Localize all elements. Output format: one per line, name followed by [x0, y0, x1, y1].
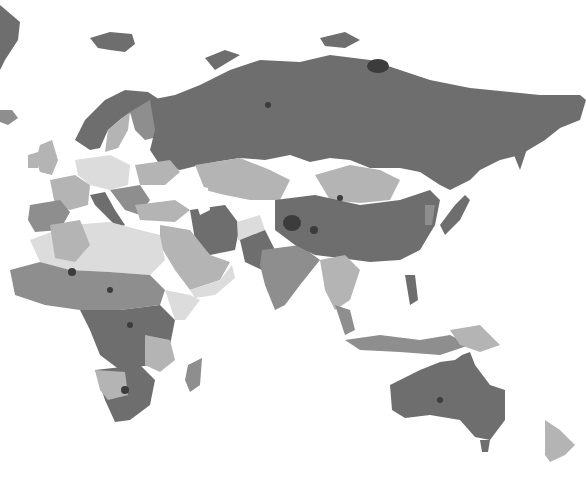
spot	[337, 195, 343, 201]
region-madagascar	[185, 358, 202, 392]
region-taymyr-spot	[367, 59, 389, 73]
region-indonesia	[345, 335, 470, 355]
region-new-zealand	[545, 420, 575, 462]
region-indochina	[320, 255, 360, 310]
region-mongolia	[315, 165, 400, 203]
spot	[68, 268, 76, 276]
region-namibia-botswana	[95, 370, 128, 400]
region-novaya-zemlya	[205, 50, 240, 70]
region-svalbard	[90, 32, 135, 52]
spot	[310, 226, 318, 234]
region-kazakhstan	[195, 158, 290, 200]
region-australia	[390, 352, 505, 440]
region-malaysia	[335, 305, 355, 335]
region-tarim-spot	[283, 215, 301, 231]
spot	[265, 102, 271, 108]
spot	[437, 397, 443, 403]
region-uk	[36, 140, 58, 175]
world-map	[0, 0, 586, 485]
region-tasmania	[480, 440, 490, 452]
region-iceland	[0, 110, 18, 125]
spot	[107, 287, 113, 293]
region-ireland	[28, 152, 38, 168]
region-greenland	[0, 5, 20, 70]
region-philippines	[405, 275, 418, 305]
region-arctic-islands	[320, 32, 360, 48]
spot	[127, 322, 133, 328]
region-india	[260, 245, 320, 310]
spot	[121, 386, 129, 394]
region-japan	[440, 195, 470, 235]
